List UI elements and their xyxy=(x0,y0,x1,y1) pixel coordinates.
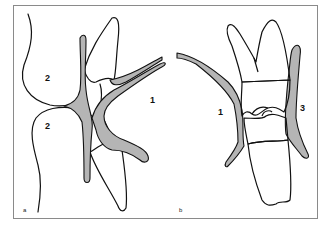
panel-b-middle-cell xyxy=(241,80,290,116)
panel-b-membrane-arc xyxy=(177,53,244,167)
region-label-3: 3 xyxy=(300,104,305,113)
region-label-1-left: 1 xyxy=(150,96,155,105)
panel-label-a: a xyxy=(23,207,26,213)
cell-2-upper-outline xyxy=(22,14,74,106)
panel-label-b: b xyxy=(179,207,182,213)
panel-b-upper-cell xyxy=(227,20,290,82)
panel-gap xyxy=(167,44,177,64)
panel-a-lower-cell xyxy=(90,143,127,210)
panel-b-bottom-cell xyxy=(248,140,291,205)
region-label-2-lower: 2 xyxy=(45,122,50,131)
diagram-canvas xyxy=(0,0,325,227)
region-label-1-right: 1 xyxy=(218,108,223,117)
panel-a-upper-cell xyxy=(84,18,119,83)
cell-2-lower-outline xyxy=(32,107,74,212)
region-label-2-upper: 2 xyxy=(45,74,50,83)
panel-b-lower-middle-cell xyxy=(244,114,288,144)
